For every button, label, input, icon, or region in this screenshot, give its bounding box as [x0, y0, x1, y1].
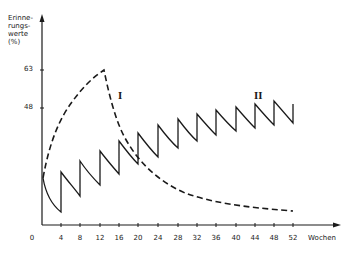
- x-tick-label-0: 0: [30, 234, 34, 242]
- x-axis-label: Wochen: [308, 234, 336, 242]
- chart-canvas: [0, 0, 357, 256]
- series-ii-sawtooth-curve: [43, 101, 293, 212]
- y-axis-label-line-2: rungs-: [8, 22, 33, 30]
- x-axis-arrow-icon: [333, 223, 341, 228]
- x-tick-label-32: 32: [193, 234, 202, 242]
- x-tick-label-8: 8: [78, 234, 82, 242]
- y-axis-label-line-4: (%): [8, 38, 33, 46]
- series-ii-label: II: [254, 91, 262, 101]
- y-axis-label-line-1: Erinne-: [8, 14, 33, 22]
- x-tick-label-16: 16: [115, 234, 124, 242]
- x-tick-label-44: 44: [251, 234, 260, 242]
- x-tick-label-52: 52: [289, 234, 298, 242]
- y-tick-label-63: 63: [24, 65, 33, 73]
- x-tick-label-48: 48: [270, 234, 279, 242]
- y-axis-label: Erinne- rungs- werte (%): [8, 14, 33, 46]
- y-axis-label-line-3: werte: [8, 30, 33, 38]
- y-axis-arrow-icon: [40, 14, 45, 22]
- y-tick-label-48: 48: [24, 103, 33, 111]
- x-tick-label-24: 24: [154, 234, 163, 242]
- x-tick-label-28: 28: [174, 234, 183, 242]
- x-tick-label-4: 4: [59, 234, 63, 242]
- series-i-label: I: [118, 91, 122, 101]
- x-tick-label-12: 12: [96, 234, 105, 242]
- x-tick-label-36: 36: [212, 234, 221, 242]
- x-tick-label-20: 20: [134, 234, 143, 242]
- x-tick-label-40: 40: [232, 234, 241, 242]
